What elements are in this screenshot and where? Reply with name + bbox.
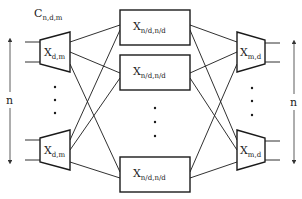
middle-switch-3: Xn/d,n/d [120, 157, 190, 192]
middle-switch-1: Xn/d,n/d [120, 10, 190, 45]
right-size-label: n [290, 96, 297, 109]
right-size-indicator: n [290, 42, 297, 162]
middle-stage: Xn/d,n/d Xn/d,n/d Xn/d,n/d [120, 10, 190, 192]
middle-ellipsis [154, 107, 156, 137]
left-size-label: n [6, 94, 13, 107]
left-stage: Xd,m Xd,m n [6, 32, 70, 170]
left-ellipsis [54, 86, 56, 114]
right-ellipsis [251, 87, 253, 116]
right-switch-2: Xm,d [237, 130, 265, 170]
left-switch-1: Xd,m [40, 32, 70, 72]
left-switch-2: Xd,m [40, 130, 70, 170]
network-title: Cn,d,m [34, 7, 63, 22]
right-switch-1: Xm,d [237, 32, 265, 72]
clos-network-diagram: Cn,d,m Xd,m Xd,m [0, 0, 302, 199]
middle-to-right-links [190, 25, 237, 178]
right-stage: Xm,d Xm,d n [237, 32, 297, 170]
left-to-middle-links [70, 25, 120, 178]
middle-switch-2: Xn/d,n/d [120, 55, 190, 90]
left-size-indicator: n [6, 40, 13, 162]
